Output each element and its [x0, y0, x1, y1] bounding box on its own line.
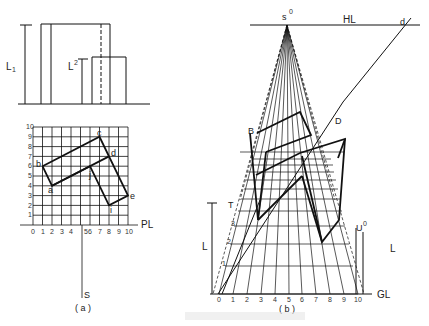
svg-text:6: 6: [28, 162, 32, 169]
svg-text:7: 7: [28, 153, 32, 160]
svg-text:0: 0: [31, 228, 35, 235]
svg-text:8: 8: [328, 296, 332, 303]
svg-text:10: 10: [354, 296, 362, 303]
label-U-sup: 0: [363, 220, 367, 227]
svg-text:9: 9: [28, 133, 32, 140]
svg-text:1: 1: [41, 228, 45, 235]
label-PL: PL: [141, 219, 154, 230]
label-L1-sub: 1: [12, 66, 16, 73]
label-L2-b: L: [390, 243, 396, 254]
label-s0: s: [282, 12, 287, 22]
panel-a-label: ( a ): [75, 303, 91, 313]
svg-text:1: 1: [231, 296, 235, 303]
svg-text:4: 4: [273, 296, 277, 303]
svg-text:a: a: [48, 185, 53, 195]
svg-text:3: 3: [28, 192, 32, 199]
ground-line: [210, 102, 372, 294]
svg-text:9: 9: [342, 296, 346, 303]
svg-text:2: 2: [245, 296, 249, 303]
svg-text:7: 7: [98, 228, 102, 235]
label-T: T: [228, 200, 234, 210]
svg-text:d: d: [111, 148, 116, 158]
svg-text:0: 0: [217, 296, 221, 303]
horizon-line: [250, 18, 420, 102]
label-U: U: [356, 223, 363, 233]
figure-drawing: L 1 L 2 10 9 8 7 6 5 4 3 2 1 0 1 2 3 4 5…: [0, 0, 429, 326]
label-d: d: [400, 17, 405, 27]
svg-text:5: 5: [287, 296, 291, 303]
label-S: S: [84, 290, 90, 300]
svg-text:2: 2: [28, 202, 32, 209]
svg-text:2: 2: [50, 228, 54, 235]
height-ticks: 1 2 3: [222, 220, 235, 267]
label-L2-sub: 2: [74, 59, 78, 66]
label-GL: GL: [377, 289, 391, 300]
svg-text:j: j: [88, 170, 91, 180]
label-B: B: [248, 126, 254, 136]
elevation-view: [18, 24, 150, 104]
svg-text:5: 5: [28, 172, 32, 179]
svg-text:2: 2: [227, 238, 231, 245]
svg-text:10: 10: [26, 123, 34, 130]
plan-point-labels: b c d e i j a: [36, 128, 135, 215]
svg-text:9: 9: [117, 228, 121, 235]
svg-text:6: 6: [88, 228, 92, 235]
svg-text:6: 6: [300, 296, 304, 303]
label-HL: HL: [343, 14, 356, 25]
svg-text:10: 10: [125, 228, 133, 235]
figure-caption: [185, 312, 305, 320]
label-s0-sup: 0: [289, 8, 293, 15]
label-L1-b: L: [202, 241, 208, 252]
gl-ticks: 0 1 2 3 4 5 6 7 8 9 10: [217, 296, 362, 303]
perspective-grid-figure: L 1 L 2 10 9 8 7 6 5 4 3 2 1 0 1 2 3 4 5…: [0, 0, 429, 326]
plan-grid: [20, 127, 138, 298]
svg-text:1: 1: [222, 260, 226, 267]
svg-text:1: 1: [28, 211, 32, 218]
svg-text:7: 7: [314, 296, 318, 303]
svg-text:4: 4: [28, 182, 32, 189]
svg-text:8: 8: [107, 228, 111, 235]
svg-text:e: e: [130, 191, 135, 201]
svg-text:3: 3: [60, 228, 64, 235]
svg-text:3: 3: [231, 220, 235, 227]
svg-text:c: c: [97, 128, 102, 138]
svg-text:3: 3: [259, 296, 263, 303]
svg-text:i: i: [110, 205, 112, 215]
svg-text:b: b: [36, 159, 41, 169]
label-D: D: [335, 116, 342, 126]
svg-text:4: 4: [69, 228, 73, 235]
svg-text:8: 8: [28, 143, 32, 150]
